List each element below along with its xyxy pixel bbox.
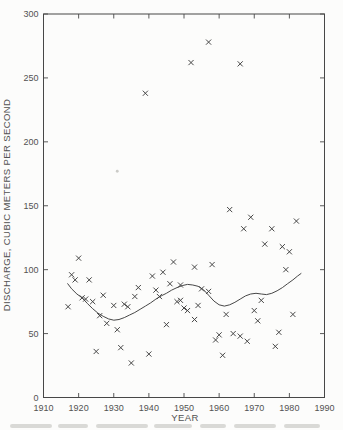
- scatter-point: [206, 289, 211, 294]
- scatter-point: [94, 349, 99, 354]
- y-axis-title: DISCHARGE, CUBIC METERS PER SECOND: [1, 99, 12, 312]
- scatter-point: [161, 270, 166, 275]
- scatter-point: [270, 226, 275, 231]
- caption-smudge: [96, 424, 148, 428]
- scatter-point: [87, 278, 92, 283]
- scatter-point: [217, 333, 222, 338]
- x-axis-title: YEAR: [171, 412, 198, 423]
- x-tick-label: 1910: [33, 403, 53, 413]
- scatter-point: [248, 215, 253, 220]
- scatter-point: [277, 330, 282, 335]
- scatter-point: [192, 317, 197, 322]
- scatter-point: [90, 299, 95, 304]
- caption-smudge: [58, 424, 88, 428]
- scatter-point: [101, 293, 106, 298]
- scatter-point: [164, 322, 169, 327]
- scatter-point: [147, 352, 152, 357]
- caption-smudge: [154, 424, 192, 428]
- y-tick-label: 50: [28, 329, 38, 339]
- scatter-point: [154, 288, 159, 293]
- faint-stray-point: [116, 170, 119, 173]
- scatter-point: [168, 281, 173, 286]
- plot-frame: [44, 14, 325, 398]
- cropped-caption-remnant: [0, 423, 343, 430]
- x-tick-label: 1980: [279, 403, 299, 413]
- scatter-point: [280, 244, 285, 249]
- scatter-point: [259, 298, 264, 303]
- x-tick-label: 1930: [104, 403, 124, 413]
- scatter-point: [136, 285, 141, 290]
- scatter-point: [66, 304, 71, 309]
- x-tick-label: 1940: [139, 403, 159, 413]
- y-tick-label: 100: [23, 265, 38, 275]
- scatter-point: [227, 207, 232, 212]
- scatter-point: [189, 60, 194, 65]
- scatter-point: [245, 339, 250, 344]
- scatter-plot-figure: 1910192019301940195019601970198019900501…: [0, 0, 343, 430]
- scatter-point: [284, 267, 289, 272]
- caption-smudge: [234, 424, 276, 428]
- smooth-trend-line: [68, 274, 301, 321]
- scatter-point: [143, 91, 148, 96]
- scatter-point: [192, 265, 197, 270]
- scatter-point: [206, 40, 211, 45]
- scatter-point: [150, 274, 155, 279]
- scatter-point: [255, 319, 260, 324]
- scatter-point: [73, 278, 78, 283]
- scatter-point: [76, 256, 81, 261]
- scatter-point: [231, 331, 236, 336]
- scatter-point: [262, 242, 267, 247]
- scatter-point: [220, 353, 225, 358]
- x-tick-label: 1960: [209, 403, 229, 413]
- x-tick-label: 1920: [69, 403, 89, 413]
- scatter-points: [66, 40, 299, 365]
- x-tick-label: 1970: [244, 403, 264, 413]
- scatter-point: [287, 249, 292, 254]
- scatter-point: [111, 303, 116, 308]
- scatter-point: [104, 321, 109, 326]
- scatter-point: [241, 226, 246, 231]
- scatter-point: [210, 262, 215, 267]
- axis-ticks: [44, 14, 325, 398]
- scatter-point: [291, 312, 296, 317]
- scatter-point: [238, 62, 243, 67]
- scatter-point: [69, 272, 74, 277]
- y-tick-label: 300: [23, 9, 38, 19]
- plot-border: [44, 14, 325, 398]
- scatter-point: [294, 219, 299, 224]
- scatter-point: [118, 345, 123, 350]
- scatter-point: [129, 361, 134, 366]
- scatter-point: [115, 327, 120, 332]
- scatter-point: [238, 334, 243, 339]
- discharge-vs-year-chart: 1910192019301940195019601970198019900501…: [0, 0, 343, 430]
- scatter-point: [213, 338, 218, 343]
- scatter-point: [171, 260, 176, 265]
- lowess-curve: [68, 274, 301, 321]
- scatter-point: [133, 294, 138, 299]
- y-tick-label: 250: [23, 73, 38, 83]
- y-tick-label: 200: [23, 137, 38, 147]
- scatter-point: [196, 303, 201, 308]
- y-tick-label: 150: [23, 201, 38, 211]
- y-tick-label: 0: [33, 393, 38, 403]
- axis-tick-labels: 1910192019301940195019601970198019900501…: [23, 9, 334, 412]
- scatter-point: [224, 312, 229, 317]
- caption-smudge: [10, 424, 52, 428]
- caption-smudge: [200, 424, 226, 428]
- scatter-point: [273, 344, 278, 349]
- caption-smudge: [284, 424, 320, 428]
- x-tick-label: 1990: [314, 403, 334, 413]
- scatter-point: [252, 308, 257, 313]
